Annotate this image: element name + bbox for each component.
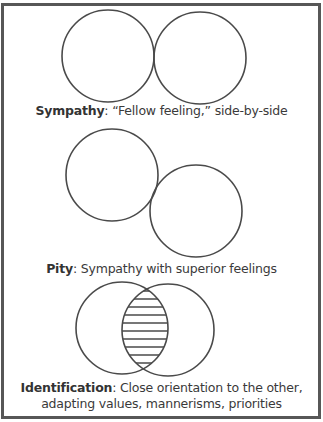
identification-diagram — [76, 282, 214, 376]
sympathy-diagram — [62, 10, 246, 104]
description: Sympathy with superior feelings — [81, 261, 277, 276]
self-circle — [62, 10, 154, 102]
other-circle — [154, 12, 246, 104]
other-circle — [150, 165, 242, 257]
self-circle — [66, 129, 158, 221]
term-label: Pity — [46, 261, 73, 276]
separator: : — [112, 380, 120, 395]
description-line-2: adapting values, mannerisms, priorities — [41, 396, 282, 411]
diagram-canvas — [0, 0, 323, 422]
pity-caption: Pity: Sympathy with superior feelings — [0, 261, 323, 276]
description: Close orientation to the other, — [120, 380, 302, 395]
term-label: Identification — [20, 380, 112, 395]
pity-diagram — [66, 129, 242, 257]
identification-caption: Identification: Close orientation to the… — [0, 380, 323, 412]
sympathy-caption: Sympathy: “Fellow feeling,” side-by-side — [0, 103, 323, 118]
term-label: Sympathy — [35, 103, 104, 118]
separator: : — [104, 103, 112, 118]
separator: : — [73, 261, 81, 276]
description: “Fellow feeling,” side-by-side — [112, 103, 287, 118]
